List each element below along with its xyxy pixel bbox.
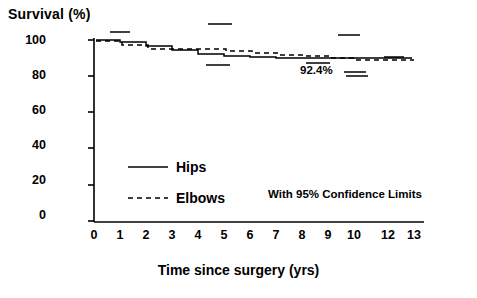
legend-label-hips: Hips bbox=[176, 159, 206, 175]
confidence-note: With 95% Confidence Limits bbox=[268, 188, 422, 200]
survival-value-label: 92.4% bbox=[300, 64, 333, 76]
legend-label-elbows: Elbows bbox=[176, 190, 225, 206]
survival-chart: Survival (%) 100 80 60 40 20 0 0 1 2 3 4… bbox=[0, 0, 477, 298]
y-axis-ticks bbox=[88, 40, 94, 221]
confidence-limit-marks bbox=[110, 24, 404, 76]
series-hips-line bbox=[96, 40, 412, 58]
plot-area bbox=[0, 0, 477, 298]
